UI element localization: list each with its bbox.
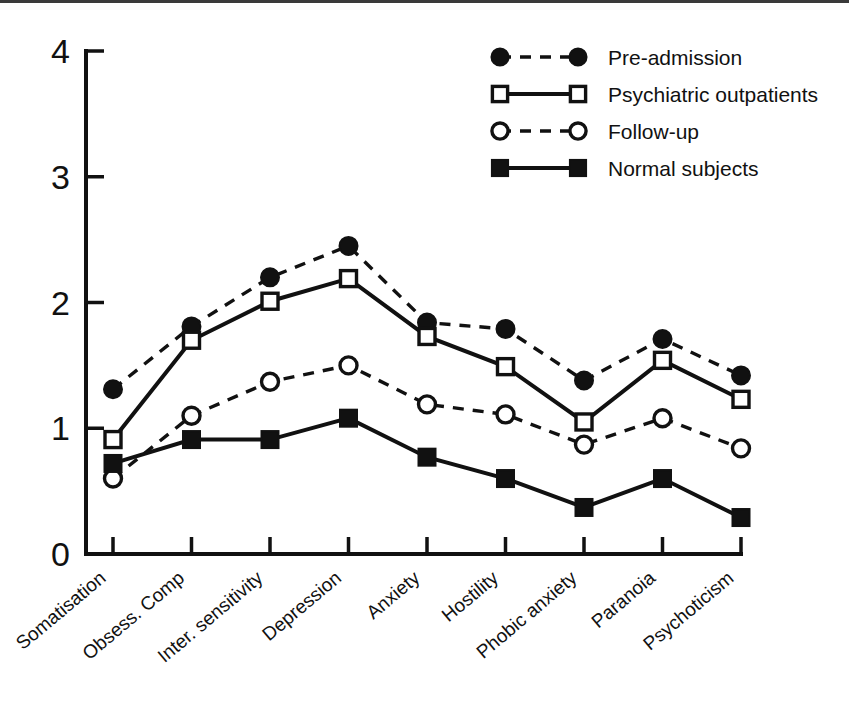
data-point-marker-open-square [105, 432, 121, 448]
data-point-marker-open-circle [497, 406, 514, 423]
x-axis-category-label: Depression [258, 567, 345, 645]
data-point-marker-open-square [570, 86, 585, 101]
series-normal-subjects [105, 410, 750, 526]
legend-label: Normal subjects [608, 157, 759, 180]
data-point-marker-filled-square [497, 470, 514, 487]
chart-legend: Pre-admissionPsychiatric outpatientsFoll… [491, 46, 818, 180]
data-point-marker-open-square [341, 271, 357, 287]
x-axis-category-labels: SomatisationObsess. CompInter. sensitivi… [12, 567, 738, 667]
legend-label: Follow-up [608, 120, 699, 143]
data-point-marker-open-circle [419, 396, 436, 413]
legend-entry-pre-admission: Pre-admission [491, 46, 742, 69]
data-point-marker-filled-square [419, 449, 436, 466]
data-point-marker-open-circle [183, 407, 200, 424]
series-follow-up [105, 357, 750, 487]
data-point-marker-filled-square [733, 509, 750, 526]
y-axis-tick-labels: 01234 [51, 32, 70, 573]
data-point-marker-filled-circle [261, 268, 279, 286]
data-point-marker-open-circle [733, 440, 750, 457]
y-axis-tick-label: 2 [51, 284, 70, 322]
x-axis-category-label: Paranoia [587, 567, 659, 632]
data-point-marker-open-square [184, 332, 200, 348]
y-axis-tick-label: 4 [51, 32, 70, 70]
y-axis-tick-label: 0 [51, 535, 70, 573]
legend-entry-follow-up: Follow-up [492, 120, 699, 143]
data-point-marker-filled-square [262, 431, 279, 448]
data-point-marker-filled-square [576, 499, 593, 516]
legend-label: Pre-admission [608, 46, 742, 69]
data-point-marker-filled-circle [340, 237, 358, 255]
data-point-marker-open-square [655, 352, 671, 368]
series-pre-admission [104, 237, 750, 398]
x-axis-category-label: Anxiety [362, 567, 424, 623]
data-point-marker-open-square [733, 391, 749, 407]
data-point-marker-open-square [419, 328, 435, 344]
legend-entry-normal-subjects: Normal subjects [492, 157, 759, 180]
x-axis-category-label: Hostility [438, 567, 503, 626]
data-point-marker-open-square [576, 414, 592, 430]
data-point-marker-filled-square [105, 455, 122, 472]
legend-label: Psychiatric outpatients [608, 83, 818, 106]
data-point-marker-open-circle [576, 436, 593, 453]
series-line [113, 418, 741, 517]
y-axis-tick-label: 3 [51, 158, 70, 196]
data-point-marker-filled-circle [569, 48, 586, 65]
data-point-marker-open-square [498, 359, 514, 375]
data-point-marker-open-circle [492, 123, 508, 139]
series-line [113, 279, 741, 440]
data-point-marker-filled-circle [497, 320, 515, 338]
data-point-marker-filled-square [183, 431, 200, 448]
line-chart-canvas: 01234 SomatisationObsess. CompInter. sen… [0, 0, 849, 714]
data-point-marker-open-circle [654, 410, 671, 427]
data-point-marker-open-circle [570, 123, 586, 139]
data-point-marker-open-square [492, 86, 507, 101]
data-point-marker-open-circle [340, 357, 357, 374]
chart-figure: 01234 SomatisationObsess. CompInter. sen… [0, 0, 849, 714]
chart-series [104, 237, 750, 526]
y-axis-tick-label: 1 [51, 409, 70, 447]
legend-entry-psychiatric-outpatients: Psychiatric outpatients [492, 83, 818, 106]
data-point-marker-filled-square [654, 470, 671, 487]
data-point-marker-filled-square [570, 160, 586, 176]
data-point-marker-open-square [262, 293, 278, 309]
data-point-marker-filled-circle [654, 330, 672, 348]
data-point-marker-filled-circle [575, 371, 593, 389]
data-point-marker-filled-circle [104, 380, 122, 398]
data-point-marker-filled-circle [491, 48, 508, 65]
data-point-marker-filled-square [340, 410, 357, 427]
data-point-marker-open-circle [262, 373, 279, 390]
data-point-marker-filled-square [492, 160, 508, 176]
data-point-marker-filled-circle [732, 366, 750, 384]
